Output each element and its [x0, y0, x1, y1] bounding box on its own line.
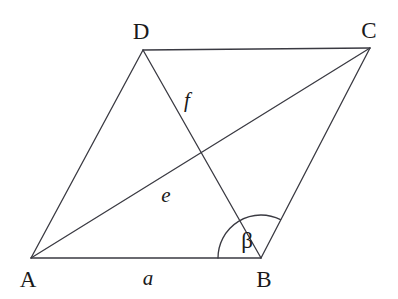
vertex-label-B: B [256, 268, 271, 291]
diagonal-AC [31, 48, 370, 258]
side-label-a: a [143, 268, 154, 289]
diagonal-label-f: f [184, 90, 190, 111]
vertex-label-A: A [20, 268, 37, 291]
vertex-label-C: C [361, 19, 376, 42]
side-BC [261, 48, 370, 258]
diagonal-label-e: e [161, 185, 170, 206]
angle-label-beta: β [241, 229, 253, 252]
vertex-label-D: D [133, 20, 150, 43]
side-DA [31, 50, 143, 258]
geometry-figure: A B C D a e f β [0, 0, 398, 299]
figure-canvas [0, 0, 398, 299]
side-CD [143, 48, 370, 50]
